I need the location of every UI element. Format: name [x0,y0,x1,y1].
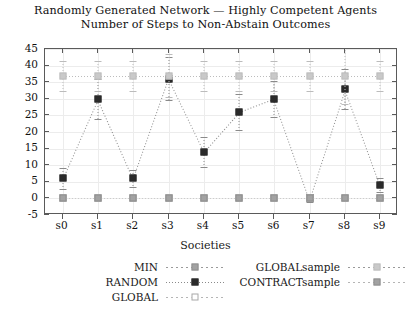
data-point-marker [342,195,349,202]
x-axis-tick [273,214,274,219]
plot-canvas [45,49,396,213]
data-point-marker [306,195,313,202]
x-axis-tick [168,214,169,219]
series-line-segment [169,76,204,77]
chart-title: Randomly Generated Network — Highly Comp… [0,4,411,32]
x-axis-tick-label: s3 [151,219,185,231]
error-bar-cap [130,187,137,188]
y-axis-tick-label: 45 [4,43,38,53]
y-axis-tick [392,214,397,215]
y-axis-tick [44,81,49,82]
series-line-segment [239,99,275,113]
x-axis-tick [168,48,169,53]
data-point-marker [342,72,349,79]
x-axis-title: Societies [0,239,411,252]
error-bar-cap [236,61,243,62]
x-axis-tick [344,214,345,219]
y-axis-tick [44,48,49,49]
y-axis-tick [44,181,49,182]
data-point-marker [377,182,384,189]
data-point-marker [306,72,313,79]
y-axis-tick-label: 0 [4,192,38,202]
error-bar-cap [94,119,101,120]
x-axis-tick-label: s4 [186,219,220,231]
error-bar-cap [306,61,313,62]
data-point-marker [130,175,137,182]
error-bar-cap [59,91,66,92]
y-axis-tick-label: 20 [4,126,38,136]
y-axis-tick-label: 35 [4,76,38,86]
legend-marker [374,264,381,271]
data-point-marker [236,195,243,202]
y-axis-tick-label: 40 [4,59,38,69]
x-axis-tick [132,48,133,53]
legend-label: CONTRACTsample [240,275,341,289]
series-line-segment [204,198,239,199]
data-point-marker [130,72,137,79]
error-bar-cap [377,192,384,193]
series-line-segment [63,99,99,179]
error-bar-cap [236,130,243,131]
x-axis-tick [344,48,345,53]
data-point-marker [59,175,66,182]
legend-item: CONTRACTsample [0,275,411,289]
error-bar-cap [130,61,137,62]
y-axis-tick [392,98,397,99]
error-bar-cap [377,178,384,179]
x-axis-tick-label: s0 [45,219,79,231]
x-axis-tick [132,214,133,219]
error-bar-cap [377,91,384,92]
error-bar-cap [59,168,66,169]
x-axis-tick-label: s8 [327,219,361,231]
series-line-segment [239,198,274,199]
data-point-marker [59,72,66,79]
series-line-segment [345,198,380,199]
error-bar-cap [200,61,207,62]
data-point-marker [200,195,207,202]
error-bar-cap [59,61,66,62]
y-axis-tick-label: 10 [4,159,38,169]
y-axis-tick-label: 25 [4,109,38,119]
x-axis-tick [309,214,310,219]
y-axis-tick [392,164,397,165]
data-point-marker [271,95,278,102]
legend-item: GLOBAL [0,290,411,304]
error-bar-cap [306,202,313,203]
series-line-segment [133,198,168,199]
legend-marker [192,294,199,301]
x-axis-tick [238,48,239,53]
x-axis-tick [203,48,204,53]
chart-figure: Randomly Generated Network — Highly Comp… [0,0,411,324]
error-bar-cap [130,91,137,92]
x-axis-tick [97,214,98,219]
error-bar-cap [94,61,101,62]
data-point-marker [200,72,207,79]
series-line-segment [98,198,133,199]
data-point-marker [271,72,278,79]
chart-title-line2: Number of Steps to Non-Abstain Outcomes [0,18,411,32]
error-bar-cap [306,91,313,92]
data-point-marker [236,72,243,79]
series-line-segment [310,76,345,77]
x-axis-tick-label: s6 [256,219,290,231]
x-axis-tick [273,48,274,53]
error-bar-cap [200,91,207,92]
error-bar-cap [94,91,101,92]
x-axis-tick-label: s2 [115,219,149,231]
series-line-segment [133,76,168,77]
error-bar-cap [200,167,207,168]
legend-key [348,275,406,289]
error-bar-cap [165,54,172,55]
y-axis-tick [44,98,49,99]
x-axis-tick [379,214,380,219]
error-bar-cap [59,189,66,190]
y-axis-tick [44,197,49,198]
series-line-segment [274,198,309,199]
y-axis-tick-label: 30 [4,92,38,102]
x-axis-tick-label: s5 [221,219,255,231]
series-line-segment [63,76,98,77]
y-axis-tick [44,114,49,115]
y-axis-tick [392,81,397,82]
x-axis-tick-label: s9 [362,219,396,231]
series-line-segment [274,76,309,77]
